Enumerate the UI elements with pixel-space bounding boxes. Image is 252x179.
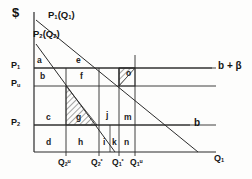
x-tick-q1s: Q1* [112,158,124,167]
y-tick-pu: Pu [11,79,20,88]
region-b: b [40,72,45,81]
region-j: j [106,111,108,120]
x-axis-label: Q1 [214,154,224,163]
x-tick-q2s: Q2* [91,158,103,167]
economics-diagram: $ P1(Q1) P2(Q2) P1 Pu P2 Q2u Q2* Q1* Q1u… [0,0,252,179]
region-o: o [126,69,131,78]
cost-upper-line-label: b + β [218,61,242,71]
region-i: i [103,138,105,147]
y-tick-p2: P2 [11,118,20,127]
demand-curve-2-label-text: P2(Q2) [33,28,60,39]
cost-lower-line-label: b [194,118,200,128]
y-tick-p1: P1 [11,61,20,70]
demand-curve-1-label-text: P1(Q1) [48,9,75,20]
region-e: e [76,56,81,65]
region-g: g [76,113,81,122]
x-axis-ticks [66,152,135,156]
demand-curve-1-label: P1(Q1) [48,10,75,20]
region-k: k [112,138,117,147]
x-tick-q2u: Q2u [58,158,71,167]
demand-curve-2-label: P2(Q2) [33,29,60,39]
region-m: m [124,113,132,122]
y-axis-label: $ [12,6,19,19]
region-c: c [46,113,51,122]
region-f: f [80,72,83,81]
region-a: a [37,56,42,65]
hatched-region-g [66,86,97,125]
region-d: d [46,138,51,147]
region-h: h [78,138,83,147]
x-tick-q1u: Q1u [130,158,143,167]
region-n: n [124,138,129,147]
